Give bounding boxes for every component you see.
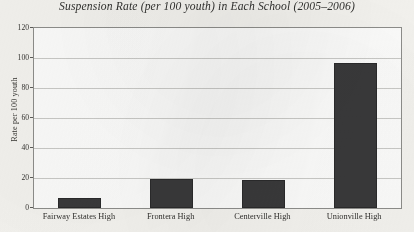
- bar: [334, 63, 377, 208]
- y-tick-label: 0: [5, 203, 29, 212]
- bar: [242, 180, 285, 209]
- y-tick-label: 60: [5, 113, 29, 122]
- gridline: [34, 58, 401, 59]
- y-tick-label: 80: [5, 83, 29, 92]
- bar: [58, 198, 101, 209]
- plot-area: [33, 27, 402, 209]
- x-axis: Fairway Estates HighFrontera HighCenterv…: [33, 212, 402, 230]
- x-tick-label: Fairway Estates High: [43, 212, 115, 221]
- y-tick-label: 20: [5, 173, 29, 182]
- x-tick-label: Frontera High: [147, 212, 194, 221]
- y-tick-label: 40: [5, 143, 29, 152]
- suspension-rate-bar-chart: Suspension Rate (per 100 youth) in Each …: [0, 0, 414, 232]
- chart-title: Suspension Rate (per 100 youth) in Each …: [0, 0, 414, 13]
- y-axis: 020406080100120: [0, 27, 29, 209]
- y-tick-label: 100: [5, 53, 29, 62]
- bar: [150, 179, 193, 208]
- y-tick-label: 120: [5, 23, 29, 32]
- x-tick-label: Centerville High: [234, 212, 290, 221]
- x-tick-label: Unionville High: [327, 212, 382, 221]
